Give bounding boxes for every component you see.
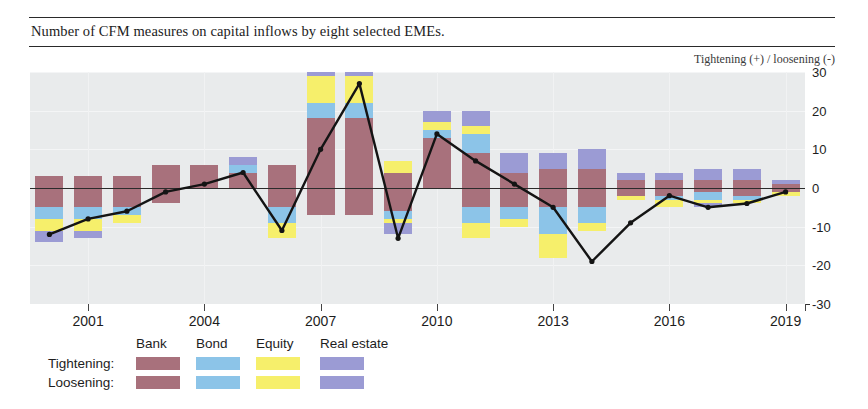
x-axis-label: 2004: [189, 313, 220, 329]
x-axis-label: 2007: [305, 313, 336, 329]
x-axis-tickmark: [204, 304, 205, 311]
line-marker: [86, 216, 91, 221]
line-marker: [241, 170, 246, 175]
legend-header-real-estate: Real estate: [320, 336, 388, 351]
page-title: Number of CFM measures on capital inflow…: [31, 23, 445, 40]
chart-page: Number of CFM measures on capital inflow…: [0, 0, 868, 409]
line-marker: [783, 189, 788, 194]
y-axis-label: 20: [812, 103, 826, 118]
line-marker: [163, 189, 168, 194]
line-marker: [589, 259, 594, 264]
legend-header-equity: Equity: [256, 336, 294, 351]
legend-swatch: [136, 357, 180, 370]
chart-legend: BankBondEquityReal estate Tightening:Loo…: [0, 336, 868, 409]
x-axis-label: 2013: [538, 313, 569, 329]
legend-swatch: [256, 376, 300, 389]
y-axis-label: -30: [812, 297, 831, 312]
x-axis-tickmark: [786, 304, 787, 311]
line-marker: [279, 228, 284, 233]
line-marker: [667, 193, 672, 198]
x-axis-tickmark: [553, 304, 554, 311]
legend-row-label-tightening: Tightening:: [48, 356, 114, 371]
y-axis-label: 30: [812, 65, 826, 80]
legend-header-bond: Bond: [196, 336, 228, 351]
plot-area: [30, 72, 805, 304]
line-path: [49, 84, 785, 262]
line-marker: [551, 205, 556, 210]
x-axis-tickmark: [321, 304, 322, 311]
title-rule-top: [29, 17, 835, 18]
y-axis-label: -20: [812, 258, 831, 273]
line-marker: [47, 232, 52, 237]
y-axis-label: 0: [812, 181, 819, 196]
x-axis-tickmark-end: [805, 304, 806, 311]
line-marker: [124, 209, 129, 214]
legend-swatch: [196, 357, 240, 370]
x-axis-tickmark: [669, 304, 670, 311]
x-axis-label: 2010: [421, 313, 452, 329]
total-net-inflow-line: [30, 72, 805, 304]
line-marker: [318, 147, 323, 152]
y-axis-label: -10: [812, 219, 831, 234]
title-rule-bottom: [29, 46, 835, 47]
line-marker: [434, 131, 439, 136]
x-axis-label: 2001: [73, 313, 104, 329]
legend-swatch: [136, 376, 180, 389]
line-marker: [357, 81, 362, 86]
legend-row-label-loosening: Loosening:: [48, 375, 114, 390]
y-axis-label: 10: [812, 142, 826, 157]
line-marker: [512, 182, 517, 187]
legend-swatch: [320, 376, 364, 389]
line-marker: [628, 220, 633, 225]
line-marker: [744, 201, 749, 206]
x-axis-tickmark: [88, 304, 89, 311]
line-marker: [706, 205, 711, 210]
line-marker: [202, 182, 207, 187]
legend-header-bank: Bank: [136, 336, 167, 351]
legend-swatch: [256, 357, 300, 370]
line-marker: [396, 236, 401, 241]
legend-swatch: [320, 357, 364, 370]
legend-swatch: [196, 376, 240, 389]
line-marker: [473, 158, 478, 163]
x-axis-label: 2016: [654, 313, 685, 329]
x-axis-tickmark: [437, 304, 438, 311]
x-axis-label: 2019: [770, 313, 801, 329]
